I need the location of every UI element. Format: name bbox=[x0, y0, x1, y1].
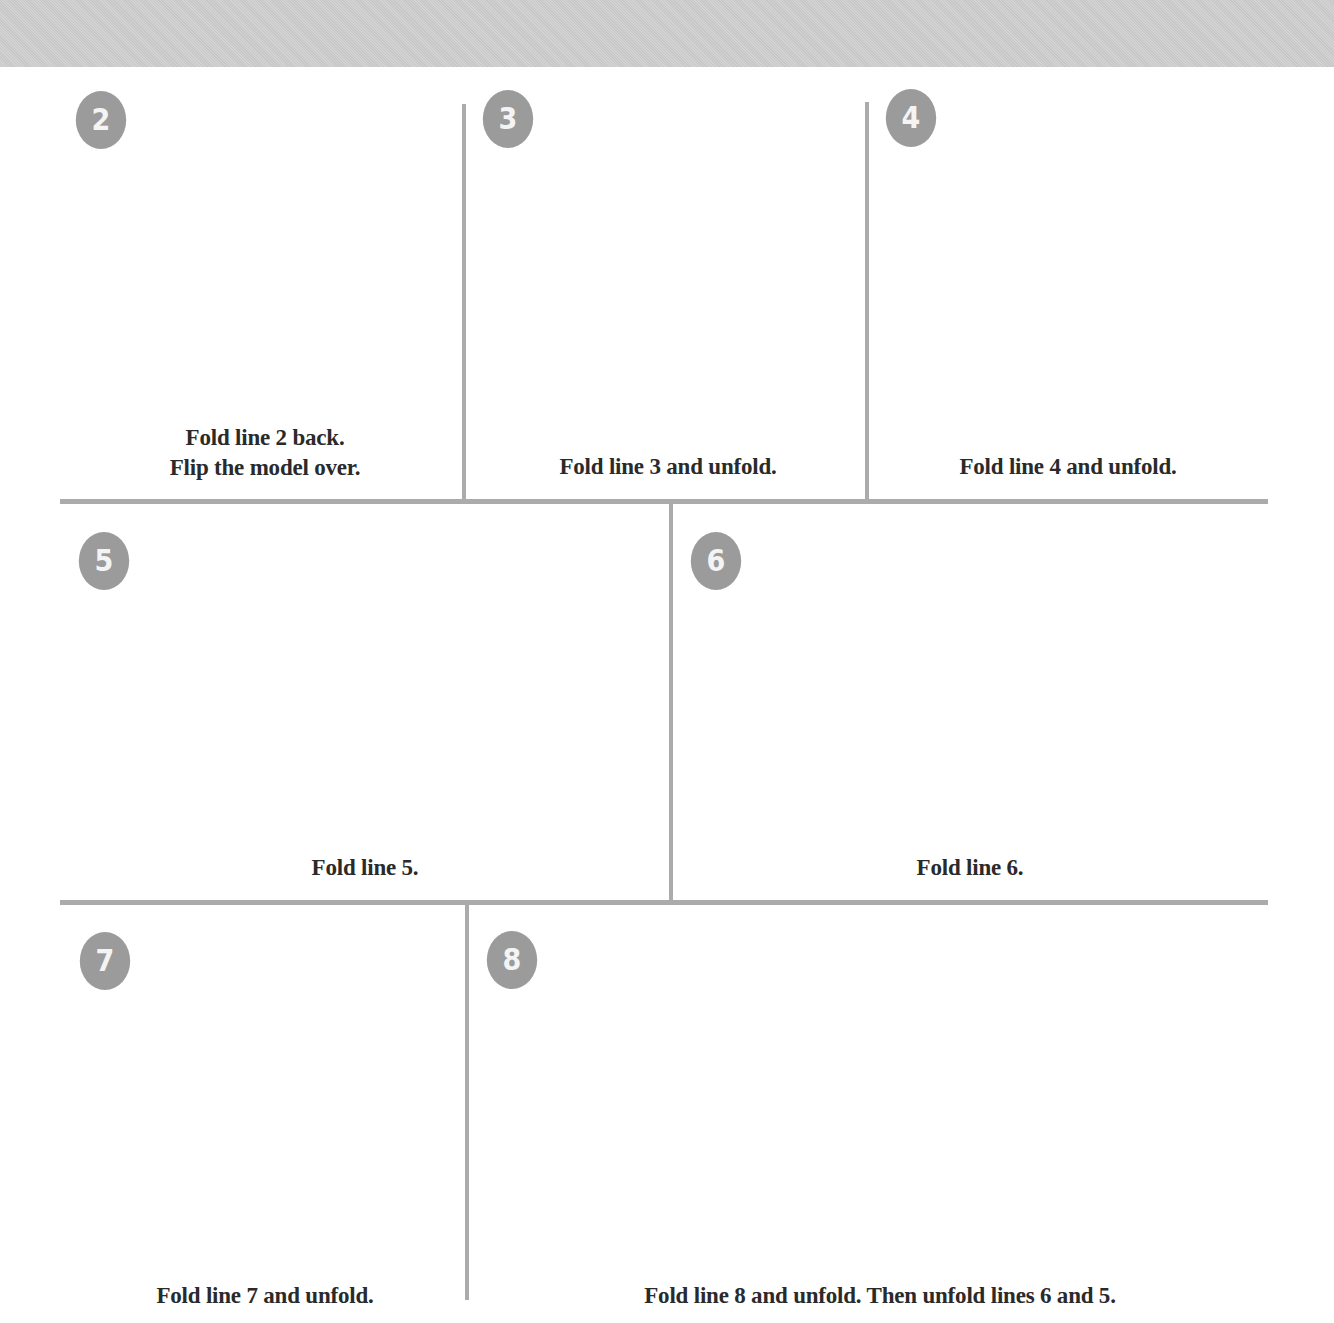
step-number-badge: 7 bbox=[80, 932, 130, 990]
divider-vertical-row2 bbox=[669, 503, 673, 901]
step-3-caption: Fold line 3 and unfold. bbox=[478, 452, 858, 482]
divider-horizontal-row2 bbox=[60, 900, 1268, 905]
divider-horizontal-row1 bbox=[60, 499, 1268, 504]
divider-vertical-row1-b bbox=[865, 102, 869, 500]
step-2-caption: Fold line 2 back. Flip the model over. bbox=[100, 423, 430, 483]
step-number-badge: 3 bbox=[483, 90, 533, 148]
step-number-badge: 8 bbox=[487, 931, 537, 989]
step-5-caption: Fold line 5. bbox=[200, 853, 530, 883]
step-number-badge: 6 bbox=[691, 532, 741, 590]
header-band bbox=[0, 0, 1334, 67]
step-number-badge: 2 bbox=[76, 91, 126, 149]
step-7-caption: Fold line 7 and unfold. bbox=[100, 1281, 430, 1311]
marker-dot bbox=[321, 1108, 339, 1126]
marker-dot bbox=[1048, 694, 1066, 712]
divider-vertical-row3 bbox=[465, 904, 469, 1300]
step-8-caption: Fold line 8 and unfold. Then unfold line… bbox=[540, 1281, 1220, 1311]
divider-vertical-row1-a bbox=[462, 104, 466, 500]
step-number-badge: 4 bbox=[886, 89, 936, 147]
step-number-badge: 5 bbox=[79, 532, 129, 590]
step-6-caption: Fold line 6. bbox=[800, 853, 1140, 883]
step-4-caption: Fold line 4 and unfold. bbox=[880, 452, 1256, 482]
marker-dot bbox=[101, 228, 115, 242]
